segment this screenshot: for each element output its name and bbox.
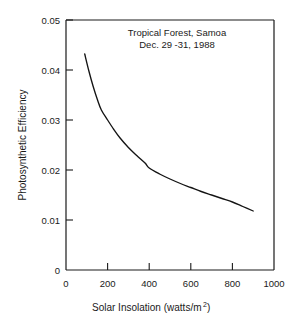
y-tick-label-0.04: 0.04: [42, 65, 61, 76]
x-tick-label-800: 800: [224, 278, 240, 289]
x-tick-marks: [108, 263, 233, 270]
y-tick-labels: 0.05 0.04 0.03 0.02 0.01 0: [42, 15, 61, 276]
chart-title-line-1: Tropical Forest, Samoa: [128, 27, 227, 38]
x-tick-label-400: 400: [141, 278, 157, 289]
y-tick-label-0.02: 0.02: [42, 165, 61, 176]
y-tick-marks: [66, 20, 73, 220]
y-tick-label-0.03: 0.03: [42, 115, 61, 126]
x-tick-label-600: 600: [183, 278, 199, 289]
y-tick-label-0.01: 0.01: [42, 215, 61, 226]
chart-canvas: 0.05 0.04 0.03 0.02 0.01 0 0 200 400 600…: [0, 0, 297, 323]
chart-title-block: Tropical Forest, Samoa Dec. 29 -31, 1988: [128, 27, 227, 50]
chart-title-line-2: Dec. 29 -31, 1988: [139, 39, 215, 50]
x-tick-label-200: 200: [100, 278, 116, 289]
x-tick-labels: 0 200 400 600 800 1000: [63, 278, 284, 289]
chart-figure: 0.05 0.04 0.03 0.02 0.01 0 0 200 400 600…: [0, 0, 297, 323]
data-series-curve: [85, 54, 253, 211]
plot-frame: [66, 20, 274, 270]
x-axis-title: Solar Insolation (watts/m 2 ): [92, 301, 210, 313]
x-axis-title-main: Solar Insolation (watts/m: [92, 302, 202, 313]
y-axis-title: Photosynthetic Efficiency: [17, 90, 28, 201]
x-tick-label-0: 0: [63, 278, 68, 289]
y-tick-label-0.05: 0.05: [42, 15, 61, 26]
y-tick-label-0: 0: [55, 265, 60, 276]
x-axis-title-tail: ): [207, 302, 210, 313]
x-tick-label-1000: 1000: [263, 278, 284, 289]
